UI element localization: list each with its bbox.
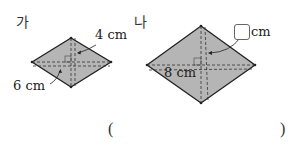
figure-label-ga: 가 [16,15,29,29]
diagonal-label-4cm: 4 cm [95,28,127,41]
diagonal-label-8cm: 8 cm [164,66,196,79]
diagonal-label-6cm: 6 cm [13,79,45,92]
answer-open-paren: ( [108,120,113,138]
answer-blank[interactable] [120,120,280,140]
figure-label-na: 나 [134,15,147,29]
answer-box-unit: cm [251,25,271,38]
answer-close-paren: ) [280,120,285,138]
answer-box[interactable] [234,24,250,40]
